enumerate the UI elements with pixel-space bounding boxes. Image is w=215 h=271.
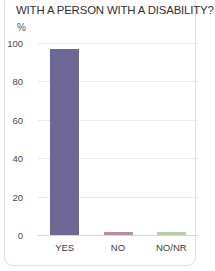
bar-no-nr[interactable] [157, 232, 186, 235]
page-title: WITH A PERSON WITH A DISABILITY? [16, 4, 202, 17]
y-axis-tick-label: 0 [0, 230, 23, 241]
bar-slot [157, 43, 186, 235]
y-axis-tick-label: 40 [0, 153, 23, 164]
bar-yes[interactable] [50, 49, 79, 235]
x-axis-tick-label: YES [38, 242, 91, 253]
plot-area: 020406080100 [38, 43, 198, 235]
gridline [38, 235, 198, 236]
bar-slot [104, 43, 133, 235]
y-axis-tick-label: 20 [0, 191, 23, 202]
bar-no[interactable] [104, 232, 133, 235]
chart-card: WITH A PERSON WITH A DISABILITY? % 02040… [4, 0, 196, 266]
y-axis-tick-label: 80 [0, 76, 23, 87]
bar-slot [50, 43, 79, 235]
y-axis-tick-label: 100 [0, 38, 23, 49]
x-axis-tick-label: NO [91, 242, 144, 253]
y-axis-unit-label: % [17, 22, 26, 33]
y-axis-tick-label: 60 [0, 114, 23, 125]
x-axis-tick-label: NO/NR [145, 242, 198, 253]
